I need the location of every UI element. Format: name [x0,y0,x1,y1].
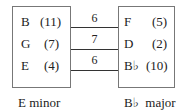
connection-line [71,27,118,28]
right-note-name: D [124,37,133,51]
left-note-value: (4) [44,59,59,73]
right-note-value: (5) [152,15,167,29]
connection-line [71,49,118,50]
right-note-value: (10) [146,59,168,73]
left-note-value: (7) [44,37,59,51]
left-note-value: (11) [40,15,61,29]
left-note-name: E [21,59,29,73]
b-flat-major-caption: B♭ major [124,96,176,110]
left-note-name: G [21,37,30,51]
interval-label: 7 [71,33,118,45]
right-note-value: (2) [152,37,167,51]
left-note-name: B [21,15,30,29]
right-note-name: B♭ [124,59,139,73]
connection-line [71,70,118,71]
right-note-name: F [124,15,131,29]
interval-label: 6 [71,12,118,24]
e-minor-caption: E minor [18,96,60,110]
interval-label: 6 [71,54,118,66]
